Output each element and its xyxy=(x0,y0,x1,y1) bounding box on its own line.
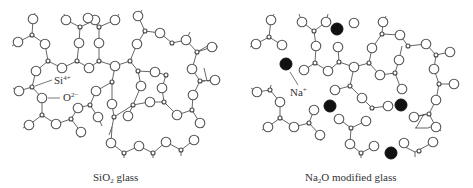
na2o-caption: Na2O modified glass xyxy=(305,171,397,185)
svg-text:O2−: O2− xyxy=(63,91,78,103)
si-label: Si4+ xyxy=(35,74,71,86)
sio2-caption: SiO2 glass xyxy=(93,171,138,185)
na-label: Na+ xyxy=(290,72,307,98)
glass-structure-diagram: Si4+ O2− SiO2 glass xyxy=(0,0,473,188)
sio2-network: Si4+ O2− xyxy=(12,10,220,158)
svg-text:Si4+: Si4+ xyxy=(54,74,71,86)
o-label: O2− xyxy=(48,91,78,103)
svg-text:Na+: Na+ xyxy=(290,86,307,98)
na2o-network: Na+ xyxy=(250,14,459,159)
